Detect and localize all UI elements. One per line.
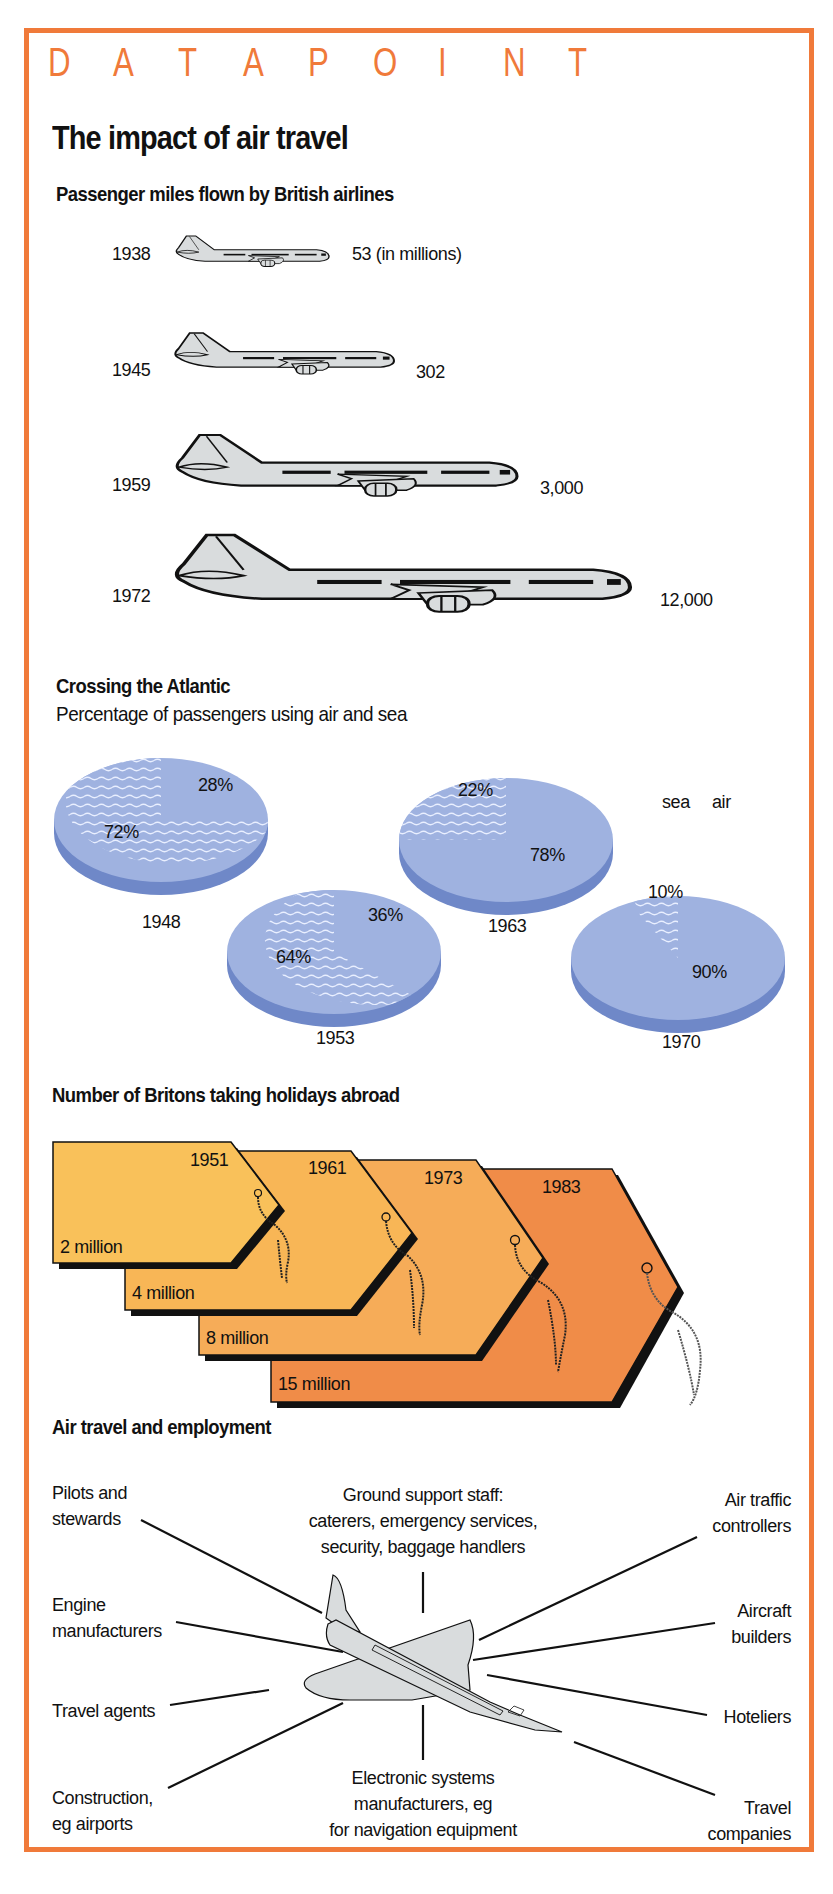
employment-engine: Engine manufacturers: [52, 1592, 162, 1644]
pie-1948-year: 1948: [142, 912, 180, 933]
pie-1948: [54, 740, 275, 895]
employment-travel-companies: Travel companies: [708, 1795, 791, 1847]
atlantic-subheading: Percentage of passengers using air and s…: [56, 702, 407, 726]
pie-1970-air-label: 90%: [692, 962, 727, 983]
atlantic-heading: Crossing the Atlantic: [56, 674, 230, 698]
pie-1948-air-label: 28%: [198, 775, 233, 796]
employment-air-traffic: Air traffic controllers: [712, 1487, 791, 1539]
pie-1963: [390, 770, 613, 915]
employment-travel-agents: Travel agents: [52, 1698, 155, 1724]
year-label-1972: 1972: [112, 586, 150, 607]
pie-1953-year: 1953: [316, 1028, 354, 1049]
pie-1970-year: 1970: [662, 1032, 700, 1053]
employment-ground-support: Ground support staff: caterers, emergenc…: [273, 1482, 573, 1560]
supersonic-jet-icon: [304, 1575, 562, 1732]
pie-1970: [571, 890, 785, 1033]
employment-pilots: Pilots and stewards: [52, 1480, 127, 1532]
plane-1972-icon: [177, 535, 630, 612]
tag-1951-label: 2 million: [60, 1237, 122, 1258]
plane-1938-icon: [176, 236, 329, 266]
tag-1983-label: 15 million: [278, 1374, 350, 1395]
year-label-1959: 1959: [112, 475, 150, 496]
value-label-1959: 3,000: [540, 478, 583, 499]
pie-1948-sea-label: 72%: [104, 822, 139, 843]
tag-1973-label: 8 million: [206, 1328, 268, 1349]
plane-1959-icon: [177, 435, 517, 496]
legend-sea: sea: [662, 792, 690, 813]
value-label-1938: 53 (in millions): [352, 244, 462, 265]
pie-1963-sea-label: 22%: [458, 780, 493, 801]
legend-air: air: [712, 792, 731, 813]
employment-construction: Construction, eg airports: [52, 1785, 153, 1837]
pie-1953-air-label: 36%: [368, 905, 403, 926]
holidays-heading: Number of Britons taking holidays abroad: [52, 1083, 400, 1107]
tag-1961-label: 4 million: [132, 1283, 194, 1304]
employment-hoteliers: Hoteliers: [724, 1704, 791, 1730]
tag-1951-year: 1951: [190, 1150, 228, 1171]
employment-heading: Air travel and employment: [52, 1415, 271, 1439]
pie-1963-year: 1963: [488, 916, 526, 937]
pie-1963-air-label: 78%: [530, 845, 565, 866]
tag-1983-year: 1983: [542, 1177, 580, 1198]
pie-1953-sea-label: 64%: [276, 947, 311, 968]
value-label-1972: 12,000: [660, 590, 713, 611]
value-label-1945: 302: [416, 362, 445, 383]
employment-electronic-systems: Electronic systems manufacturers, eg for…: [273, 1765, 573, 1843]
employment-aircraft-builders: Aircraft builders: [731, 1598, 791, 1650]
year-label-1938: 1938: [112, 244, 150, 265]
year-label-1945: 1945: [112, 360, 150, 381]
plane-1945-icon: [175, 333, 394, 374]
tag-1973-year: 1973: [424, 1168, 462, 1189]
tag-1961-year: 1961: [308, 1158, 346, 1179]
pie-1970-sea-label: 10%: [648, 882, 683, 903]
pie-1953: [227, 880, 441, 1027]
